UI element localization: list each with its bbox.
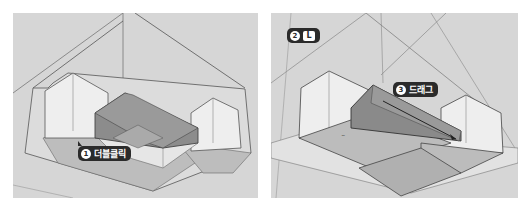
line-tool-shortcut-callout: 2 L: [287, 28, 320, 43]
viewport-panel-2[interactable]: ~ 2 L 3 드래그: [271, 13, 518, 198]
double-click-callout: 1 더블클릭: [78, 146, 131, 161]
viewport-panel-1[interactable]: 1 더블클릭: [13, 13, 258, 198]
step-number-badge: 3: [396, 85, 406, 95]
keyboard-key-l: L: [303, 31, 315, 41]
callout-text: 드래그: [409, 83, 433, 96]
svg-text:~: ~: [341, 132, 345, 138]
model-viewport-1[interactable]: [13, 13, 258, 198]
drag-callout: 3 드래그: [393, 82, 438, 97]
step-number-badge: 1: [81, 149, 91, 159]
step-number-badge: 2: [290, 31, 300, 41]
callout-text: 더블클릭: [94, 147, 126, 160]
